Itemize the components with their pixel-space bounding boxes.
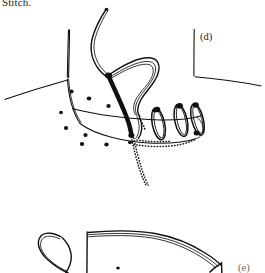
stipple-dot bbox=[87, 97, 92, 101]
figure-page: Stitch. bbox=[0, 0, 265, 273]
needle-highlight bbox=[112, 82, 127, 118]
stipple-dot bbox=[59, 111, 63, 114]
whip-stitch-knot bbox=[192, 102, 198, 107]
suture-illustration-svg bbox=[0, 0, 265, 273]
whip-stitch-loops bbox=[149, 102, 207, 141]
panel-d-group bbox=[5, 8, 262, 185]
stipple-dot bbox=[69, 90, 73, 94]
suture-thread-tip bbox=[105, 8, 109, 11]
whip-stitch-loop bbox=[149, 107, 168, 141]
curved-needle-shaft bbox=[109, 76, 132, 134]
tissue-surface-left bbox=[5, 80, 68, 100]
panel-e-thread-loop-inner bbox=[62, 237, 71, 273]
whip-stitch-knot bbox=[176, 103, 183, 109]
panel-label-e: (e) bbox=[238, 262, 250, 273]
panel-e-thread-loop-strand2 bbox=[41, 236, 68, 271]
stipple-dot bbox=[80, 142, 84, 146]
panel-e-stipple-dot bbox=[116, 266, 120, 269]
panel-e-group bbox=[38, 231, 221, 273]
suture-thread-free-end bbox=[91, 10, 107, 77]
whip-stitch-knot-lower bbox=[194, 131, 200, 136]
stipple-dot bbox=[83, 133, 87, 137]
stipple-dot bbox=[106, 104, 110, 108]
whip-stitch-loop bbox=[188, 102, 207, 136]
hidden-running-thread-2 bbox=[137, 140, 171, 142]
panel-e-flap-bottom-notch bbox=[210, 264, 222, 273]
stipple-dot bbox=[104, 143, 108, 147]
tissue-surface-right bbox=[195, 77, 262, 86]
stipple-dot bbox=[64, 126, 68, 130]
panel-label-d: (d) bbox=[200, 31, 212, 42]
stipple-dot bbox=[128, 141, 132, 145]
suture-thread-to-stitch-strand2 bbox=[136, 116, 140, 138]
hidden-thread-tail-2 bbox=[134, 138, 148, 185]
whip-stitch-knot bbox=[154, 107, 161, 113]
whip-stitch-loop bbox=[172, 103, 191, 138]
